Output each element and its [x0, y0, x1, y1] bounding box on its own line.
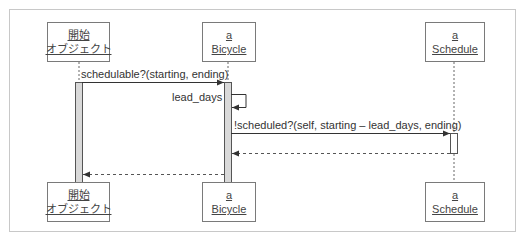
object-name-line2: Schedule	[432, 202, 478, 216]
object-name-line2: Bicycle	[212, 42, 247, 56]
object-name-line1: a	[226, 188, 232, 202]
message-label-schedulable: schedulable?(starting, ending)	[81, 68, 228, 80]
object-name-line1: a	[452, 188, 458, 202]
object-name-line1: 開始	[68, 188, 90, 202]
message-arrow-lead-days	[231, 95, 246, 108]
object-name-line1: a	[226, 28, 232, 42]
lifeline-foot-origin: 開始 オブジェクト	[47, 182, 110, 222]
lifeline-head-schedule: a Schedule	[425, 22, 485, 62]
message-label-lead-days: lead_days	[172, 91, 222, 103]
object-name-line2: オブジェクト	[46, 42, 112, 56]
lifeline-head-origin: 開始 オブジェクト	[47, 22, 110, 62]
object-name-line2: Schedule	[432, 42, 478, 56]
lifeline-foot-bicycle: a Bicycle	[202, 182, 256, 222]
activation-schedule	[451, 134, 458, 154]
object-name-line1: 開始	[68, 28, 90, 42]
object-name-line2: Bicycle	[212, 202, 247, 216]
object-name-line1: a	[452, 28, 458, 42]
lifeline-head-bicycle: a Bicycle	[202, 22, 256, 62]
lifeline-foot-schedule: a Schedule	[425, 182, 485, 222]
object-name-line2: オブジェクト	[46, 202, 112, 216]
message-label-scheduled: !scheduled?(self, starting – lead_days, …	[234, 119, 461, 131]
